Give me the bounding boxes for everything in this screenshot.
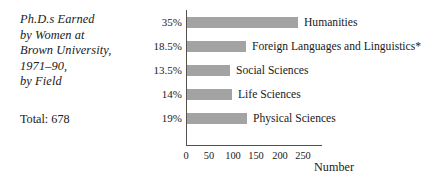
bar-percent-label: 13.5% bbox=[154, 61, 182, 80]
bar-category-label: Physical Sciences bbox=[253, 109, 336, 128]
x-tick-label: 100 bbox=[225, 150, 241, 161]
figure-caption: Ph.D.s Earned by Women at Brown Universi… bbox=[20, 12, 160, 90]
bar-percent-label: 18.5% bbox=[154, 37, 182, 56]
bar bbox=[187, 65, 230, 76]
x-tick-label: 150 bbox=[248, 150, 264, 161]
x-axis-line bbox=[186, 145, 322, 146]
caption-line: Ph.D.s Earned bbox=[20, 12, 160, 28]
bar bbox=[187, 113, 247, 124]
caption-line: 1971–90, bbox=[20, 59, 160, 75]
bar-category-label: Foreign Languages and Linguistics* bbox=[252, 37, 421, 56]
bar-category-label: Humanities bbox=[304, 13, 357, 32]
bar-row: 13.5%Social Sciences bbox=[186, 60, 322, 84]
bar bbox=[187, 89, 232, 100]
bar bbox=[187, 41, 246, 52]
bar-row: 18.5%Foreign Languages and Linguistics* bbox=[186, 36, 322, 60]
bar-percent-label: 14% bbox=[162, 85, 182, 104]
caption-line: Brown University, bbox=[20, 43, 160, 59]
bar-row: 19%Physical Sciences bbox=[186, 108, 322, 132]
x-tick-label: 250 bbox=[295, 150, 311, 161]
x-tick-label: 50 bbox=[204, 150, 214, 161]
total-count-label: Total: 678 bbox=[20, 112, 70, 127]
bar-percent-label: 35% bbox=[162, 13, 182, 32]
bar-category-label: Social Sciences bbox=[236, 61, 308, 80]
x-tick-label: 200 bbox=[272, 150, 288, 161]
x-axis-title: Number bbox=[314, 160, 354, 175]
bar-percent-label: 19% bbox=[162, 109, 182, 128]
bar-row: 35%Humanities bbox=[186, 12, 322, 36]
caption-line: by Women at bbox=[20, 28, 160, 44]
caption-line: by Field bbox=[20, 74, 160, 90]
plot-area: 35%Humanities18.5%Foreign Languages and … bbox=[186, 10, 322, 145]
bar bbox=[187, 17, 298, 28]
bar-category-label: Life Sciences bbox=[238, 85, 301, 104]
bar-row: 14%Life Sciences bbox=[186, 84, 322, 108]
chart-figure: Ph.D.s Earned by Women at Brown Universi… bbox=[0, 0, 445, 178]
x-tick-label: 0 bbox=[183, 150, 188, 161]
